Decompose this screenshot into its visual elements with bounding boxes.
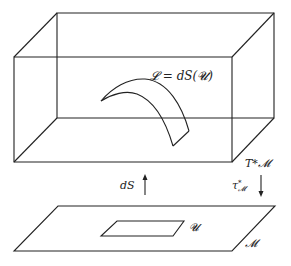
- projection-arrow: [259, 175, 264, 197]
- manifold-label: 𝓜: [245, 237, 261, 250]
- arrow-down-icon: [259, 191, 264, 197]
- section-label: dS: [120, 179, 135, 192]
- surface-bottom-edge: [173, 131, 189, 146]
- lagrangian-label: 𝓛 = dS(𝓤): [150, 69, 213, 83]
- box-edge-bottom-right: [232, 118, 274, 162]
- surface-inner-arc: [101, 92, 173, 146]
- box-back-face: [57, 13, 274, 118]
- open-set-region: [101, 221, 184, 236]
- box-edge-top-left: [14, 13, 57, 57]
- cotangent-bundle-label: T*𝓜: [245, 157, 274, 170]
- cotangent-bundle-box: [14, 13, 274, 162]
- box-edge-bottom-left: [14, 118, 57, 162]
- open-set-label: 𝓤: [189, 221, 202, 234]
- surface-outer-arc: [101, 79, 189, 131]
- section-arrow: [143, 174, 148, 195]
- lagrangian-surface: [101, 79, 189, 146]
- box-edge-top-right: [232, 13, 274, 57]
- base-manifold-plane: [14, 206, 275, 251]
- projection-label: τ*𝓜: [232, 179, 248, 193]
- arrow-up-icon: [143, 174, 148, 180]
- diagram-canvas: 𝓛 = dS(𝓤) T*𝓜 dS τ*𝓜 𝓤 𝓜: [0, 0, 291, 266]
